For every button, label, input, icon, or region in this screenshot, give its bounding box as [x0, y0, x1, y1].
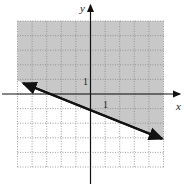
coordinate-plane: xy11 [0, 0, 184, 186]
y-tick-label: 1 [83, 76, 88, 87]
graph: xy11 [0, 0, 184, 186]
x-tick-label: 1 [103, 99, 108, 110]
x-axis-label: x [175, 100, 181, 112]
y-axis-label: y [79, 2, 85, 14]
